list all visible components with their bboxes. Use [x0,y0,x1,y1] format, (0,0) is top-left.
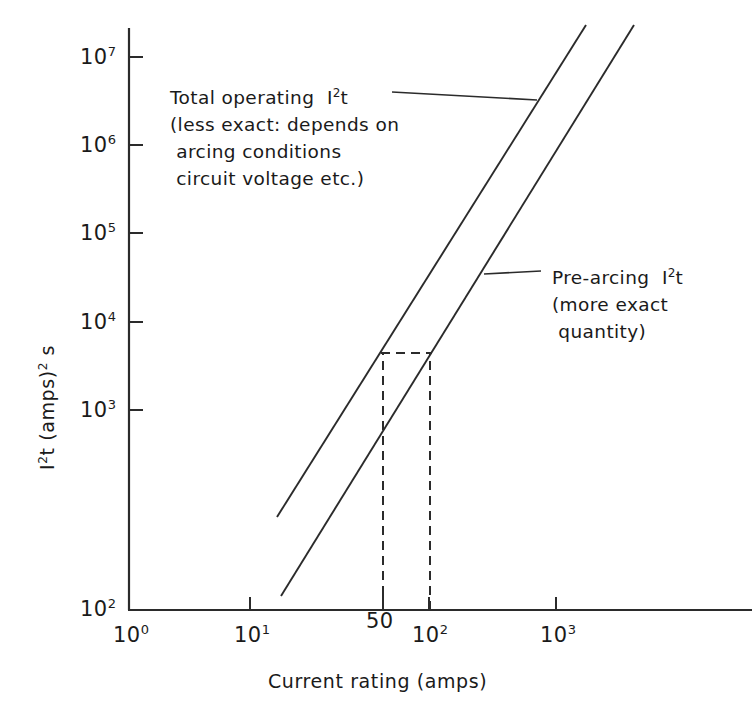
annotation-pre-arcing-line1: Pre-arcing I2t [552,260,683,291]
y-axis-title: I2t (amps)2 s [36,345,58,470]
y-tick-label-1e2: 102 [42,596,116,621]
annotation-total-operating-line2: (less exact: depends on [170,111,399,138]
annotation-total-operating: Total operating I2t (less exact: depends… [170,80,399,192]
x-tick-label-1e0: 100 [113,622,149,647]
y-tick-label-1e4: 104 [42,309,116,334]
x-tick-label-1e2: 102 [412,622,448,647]
x-axis-ticks [250,594,556,610]
annotation-leaders [392,92,541,274]
annotation-pre-arcing-line2: (more exact [552,291,683,318]
y-tick-label-1e7: 107 [42,44,116,69]
x-axis-title: Current rating (amps) [268,670,487,692]
x-tick-label-1e1: 101 [234,622,270,647]
x-tick-label-50: 50 [366,609,394,633]
annotation-total-operating-line3: arcing conditions [170,138,399,165]
y-tick-label-1e6: 106 [42,132,116,157]
y-axis-ticks [129,57,143,410]
leader-total-operating [392,92,537,100]
fuse-i2t-chart: 107 106 105 104 103 102 I2t (amps)2 s 10… [0,0,755,706]
x-tick-label-1e3: 103 [540,622,576,647]
annotation-total-operating-line1: Total operating I2t [170,80,399,111]
y-tick-label-1e5: 105 [42,220,116,245]
annotation-pre-arcing-line3: quantity) [552,318,683,345]
annotation-pre-arcing: Pre-arcing I2t (more exact quantity) [552,260,683,345]
leader-pre-arcing [484,271,541,274]
annotation-total-operating-line4: circuit voltage etc.) [170,165,399,192]
